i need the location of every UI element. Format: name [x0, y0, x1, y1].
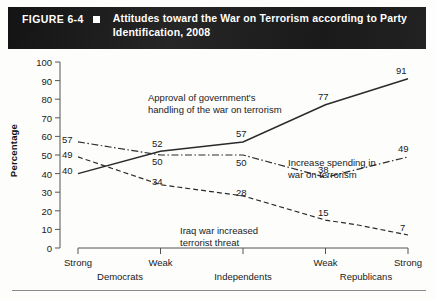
point-label-approval-strong-rep: 91	[396, 65, 407, 76]
x-tick-strong-republicans: Strong	[394, 257, 422, 268]
point-label-iraq-strong-rep: 7	[400, 222, 405, 233]
figure-title-bar: FIGURE 6-4 Attitudes toward the War on T…	[8, 7, 426, 49]
point-label-spending-strong-rep: 49	[398, 143, 409, 154]
point-label-approval-strong-dem: 40	[62, 165, 73, 176]
square-marker-icon	[93, 16, 100, 23]
point-label-iraq-weak-rep: 15	[318, 207, 329, 218]
x-tick-weak-democrats: Weak	[148, 257, 172, 268]
x-group-independents: Independents	[214, 271, 272, 282]
x-tick-strong-democrats: Strong	[64, 257, 92, 268]
chart-plot-area: Percentage 100 90 80 70 60 50 40 30 20 1…	[0, 49, 436, 300]
figure-number: FIGURE 6-4	[22, 12, 84, 25]
point-label-iraq-weak-dem: 34	[152, 176, 163, 187]
annotation-spending-line1: Increase spending in	[288, 157, 376, 169]
figure-title: Attitudes toward the War on Terrorism ac…	[113, 12, 418, 39]
figure-bottom-rule	[12, 290, 426, 291]
y-tick-marks	[55, 62, 60, 248]
figure-container: FIGURE 6-4 Attitudes toward the War on T…	[0, 0, 436, 300]
annotation-spending-line2: war on terrorism	[288, 169, 357, 181]
point-label-spending-weak-dem: 50	[152, 156, 163, 167]
annotation-iraq-line2: terrorist threat	[180, 237, 239, 249]
annotation-approval-line1: Approval of government's	[148, 92, 255, 104]
annotation-iraq-line1: Iraq war increased	[180, 225, 258, 237]
x-tick-marks	[78, 248, 408, 254]
point-label-approval-weak-rep: 77	[318, 91, 329, 102]
point-label-iraq-strong-dem: 49	[62, 149, 73, 160]
point-label-spending-indep: 50	[236, 157, 247, 168]
x-group-republicans: Republicans	[340, 271, 392, 282]
point-label-iraq-indep: 28	[236, 187, 247, 198]
x-group-democrats: Democrats	[97, 271, 143, 282]
point-label-approval-indep: 57	[236, 128, 247, 139]
x-tick-weak-republicans: Weak	[313, 257, 337, 268]
point-label-spending-strong-dem: 57	[62, 134, 73, 145]
annotation-approval-line2: handling of the war on terrorism	[148, 104, 282, 116]
point-label-approval-weak-dem: 52	[152, 138, 163, 149]
